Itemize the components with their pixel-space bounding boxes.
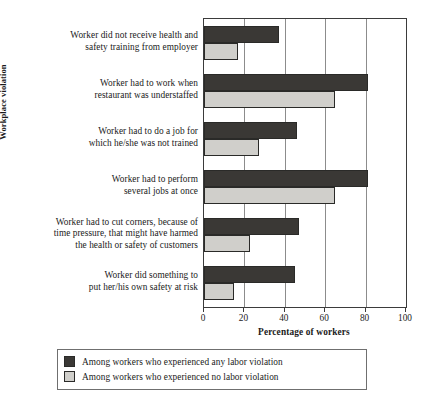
x-axis-tick <box>284 307 285 312</box>
bar-no-violation <box>204 283 234 300</box>
legend: Among workers who experienced any labor … <box>57 349 367 390</box>
y-axis-title-label: Workplace violation <box>0 42 8 162</box>
bar-any-violation <box>204 74 368 91</box>
x-axis-tick-label: 60 <box>320 313 329 323</box>
x-axis-tick <box>365 307 366 312</box>
y-axis-title: Workplace violation <box>2 110 18 230</box>
category-label-line: time pressure, that might have harmed <box>18 228 198 240</box>
category-label-list: Worker did not receive health andsafety … <box>18 18 201 306</box>
gridline <box>244 19 245 307</box>
category-label: Worker had to performseveral jobs at onc… <box>18 174 198 197</box>
bar-no-violation <box>204 187 335 204</box>
bar-no-violation <box>204 235 250 252</box>
category-label-line: several jobs at once <box>18 186 198 198</box>
bar-any-violation <box>204 26 279 43</box>
category-label: Worker had to cut corners, because oftim… <box>18 217 198 252</box>
category-label-line: Worker had to perform <box>18 174 198 186</box>
category-label-line: which he/she was not trained <box>18 138 198 150</box>
category-label-line: the health or safety of customers <box>18 240 198 252</box>
bar-no-violation <box>204 91 335 108</box>
x-axis-tick-label: 100 <box>398 313 412 323</box>
bar-any-violation <box>204 266 295 283</box>
category-label-line: Worker had to do a job for <box>18 126 198 138</box>
category-label: Worker had to do a job forwhich he/she w… <box>18 126 198 149</box>
category-label: Worker had to work whenrestaurant was un… <box>18 78 198 101</box>
gridline <box>285 19 286 307</box>
x-axis-tick <box>324 307 325 312</box>
legend-item-none: Among workers who experienced no labor v… <box>64 369 360 384</box>
category-label-line: restaurant was understaffed <box>18 90 198 102</box>
bar-any-violation <box>204 170 368 187</box>
category-label-line: Worker had to work when <box>18 78 198 90</box>
gridline <box>325 19 326 307</box>
category-label-line: Worker did something to <box>18 270 198 282</box>
x-axis-tick-label: 0 <box>201 313 206 323</box>
x-axis-title: Percentage of workers <box>203 327 405 337</box>
legend-swatch-none-icon <box>64 371 75 382</box>
bar-no-violation <box>204 139 259 156</box>
legend-label-any: Among workers who experienced any labor … <box>82 357 283 367</box>
bar-any-violation <box>204 122 297 139</box>
gridline <box>366 19 367 307</box>
x-axis-tick <box>243 307 244 312</box>
x-axis-tick-label: 80 <box>360 313 369 323</box>
category-label: Worker did something toput her/his own s… <box>18 270 198 293</box>
x-axis-tick-label: 40 <box>279 313 288 323</box>
x-axis-tick-label: 20 <box>239 313 248 323</box>
bar-any-violation <box>204 218 299 235</box>
bar-no-violation <box>204 43 238 60</box>
plot-area <box>203 18 407 308</box>
x-axis-tick <box>405 307 406 312</box>
category-label-line: Worker had to cut corners, because of <box>18 217 198 229</box>
x-axis-tick <box>203 307 204 312</box>
category-label: Worker did not receive health andsafety … <box>18 30 198 53</box>
legend-swatch-any-icon <box>64 356 75 367</box>
category-label-line: put her/his own safety at risk <box>18 282 198 294</box>
legend-item-any: Among workers who experienced any labor … <box>64 354 360 369</box>
legend-label-none: Among workers who experienced no labor v… <box>82 372 279 382</box>
category-label-line: safety training from employer <box>18 42 198 54</box>
category-label-line: Worker did not receive health and <box>18 30 198 42</box>
